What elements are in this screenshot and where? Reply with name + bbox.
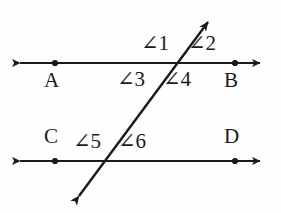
angle-label-2: ∠2 — [188, 33, 216, 54]
point-d-dot — [232, 158, 238, 164]
angle-label-5: ∠5 — [73, 131, 101, 152]
point-label-d: D — [224, 126, 239, 147]
angle-label-4: ∠4 — [163, 69, 191, 90]
point-a-dot — [52, 60, 58, 66]
point-label-a: A — [44, 70, 59, 91]
angle-label-1: ∠1 — [141, 33, 169, 54]
point-label-c: C — [44, 126, 58, 147]
angle-label-6: ∠6 — [118, 131, 146, 152]
angle-label-3: ∠3 — [117, 69, 145, 90]
point-label-b: B — [224, 70, 238, 91]
point-c-dot — [52, 158, 58, 164]
point-b-dot — [232, 60, 238, 66]
geometry-figure: A B C D ∠1 ∠2 ∠3 ∠4 ∠5 ∠6 — [0, 0, 281, 213]
